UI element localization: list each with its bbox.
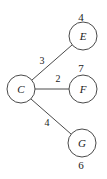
node-value-g: 6 <box>78 159 84 171</box>
node-value-e: 4 <box>78 11 84 23</box>
edge-weight-c-e: 3 <box>40 55 45 66</box>
edge-c-g <box>31 99 71 134</box>
node-label-f: F <box>79 83 87 95</box>
weighted-graph-diagram: C E F G 4 7 6 3 2 4 <box>0 0 107 179</box>
node-label-g: G <box>78 137 86 149</box>
graph-canvas: C E F G 4 7 6 3 2 4 <box>0 0 107 179</box>
node-value-f: 7 <box>78 62 84 74</box>
node-label-e: E <box>79 30 87 42</box>
edge-weight-c-g: 4 <box>45 117 50 128</box>
edge-weight-c-f: 2 <box>56 73 61 84</box>
edge-c-e <box>32 45 72 80</box>
node-label-c: C <box>17 83 25 95</box>
